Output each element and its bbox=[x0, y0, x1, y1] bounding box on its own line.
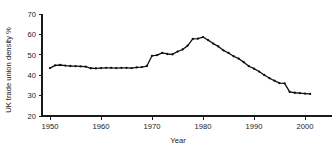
x-axis-title: Year bbox=[170, 136, 186, 145]
data-point bbox=[304, 92, 306, 94]
data-point bbox=[156, 54, 158, 56]
y-tick-label: 50 bbox=[28, 51, 36, 60]
data-point bbox=[151, 55, 153, 57]
data-point bbox=[85, 65, 87, 67]
y-tick-label: 60 bbox=[28, 30, 36, 39]
series-line-union-density bbox=[50, 37, 310, 94]
y-axis-title: UK trade union density % bbox=[4, 27, 13, 113]
data-point bbox=[171, 53, 173, 55]
data-point bbox=[120, 67, 122, 69]
data-point bbox=[212, 42, 214, 44]
data-point bbox=[202, 36, 204, 38]
data-point bbox=[176, 50, 178, 52]
data-point bbox=[227, 52, 229, 54]
data-point bbox=[64, 64, 66, 66]
data-point bbox=[248, 65, 250, 67]
data-point bbox=[79, 65, 81, 67]
y-tick-labels: 203040506070 bbox=[28, 10, 36, 121]
data-point bbox=[222, 49, 224, 51]
data-point bbox=[283, 82, 285, 84]
data-point bbox=[289, 91, 291, 93]
x-tick-label: 1950 bbox=[42, 122, 59, 131]
x-tick-label: 1990 bbox=[246, 122, 263, 131]
line-chart: UK trade union density % 203040506070 19… bbox=[0, 0, 336, 147]
data-point bbox=[243, 61, 245, 63]
x-tick-label: 1980 bbox=[195, 122, 212, 131]
data-point bbox=[74, 65, 76, 67]
data-point bbox=[125, 67, 127, 69]
series-markers-union-density bbox=[49, 36, 311, 95]
data-point bbox=[141, 66, 143, 68]
y-tick-label: 70 bbox=[28, 10, 36, 19]
data-point bbox=[192, 38, 194, 40]
data-point bbox=[309, 93, 311, 95]
data-point bbox=[69, 65, 71, 67]
y-tick-label: 30 bbox=[28, 91, 36, 100]
data-point bbox=[278, 82, 280, 84]
data-point bbox=[299, 92, 301, 94]
x-tick-label: 1960 bbox=[93, 122, 110, 131]
x-tick-label: 1970 bbox=[144, 122, 161, 131]
data-point bbox=[181, 48, 183, 50]
data-point bbox=[273, 80, 275, 82]
data-point bbox=[294, 92, 296, 94]
data-point bbox=[197, 38, 199, 40]
data-point bbox=[207, 39, 209, 41]
data-point bbox=[136, 66, 138, 68]
data-point bbox=[161, 52, 163, 54]
y-tick-label: 40 bbox=[28, 71, 36, 80]
data-point bbox=[105, 67, 107, 69]
y-tick-label: 20 bbox=[28, 112, 36, 121]
data-point bbox=[146, 65, 148, 67]
data-point bbox=[49, 67, 51, 69]
chart-container: UK trade union density % 203040506070 19… bbox=[0, 0, 336, 147]
data-point bbox=[90, 67, 92, 69]
data-point bbox=[166, 53, 168, 55]
data-point bbox=[110, 67, 112, 69]
data-point bbox=[258, 70, 260, 72]
data-point bbox=[59, 64, 61, 66]
data-point bbox=[54, 64, 56, 66]
data-point bbox=[238, 58, 240, 60]
data-point bbox=[253, 68, 255, 70]
data-point bbox=[263, 74, 265, 76]
data-point bbox=[217, 45, 219, 47]
x-tick-labels: 195019601970198019902000 bbox=[42, 122, 314, 131]
data-point bbox=[232, 55, 234, 57]
data-point bbox=[100, 67, 102, 69]
data-point bbox=[115, 67, 117, 69]
data-point bbox=[130, 67, 132, 69]
data-point bbox=[268, 77, 270, 79]
x-tick-label: 2000 bbox=[297, 122, 314, 131]
data-point bbox=[187, 44, 189, 46]
data-point bbox=[95, 67, 97, 69]
